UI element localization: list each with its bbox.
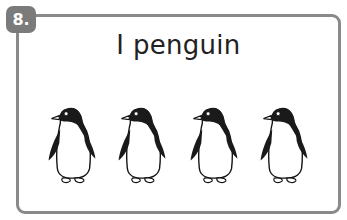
penguin-icon: [46, 100, 98, 186]
card-title: I penguin: [16, 30, 341, 60]
penguin-icon: [188, 100, 240, 186]
penguin-icon: [116, 100, 168, 186]
number-badge: 8.: [6, 6, 36, 33]
penguin-icon: [258, 100, 310, 186]
